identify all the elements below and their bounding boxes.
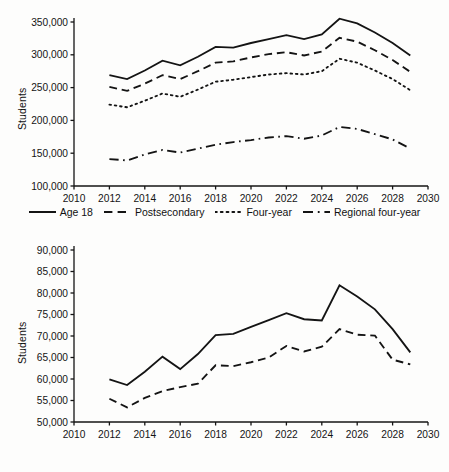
y-tick-label: 85,000 [37, 266, 68, 277]
legend-label: Age 18 [60, 207, 93, 218]
y-tick-label: 60,000 [37, 374, 68, 385]
y-tick-label: 150,000 [31, 148, 68, 159]
legend-line-swatch [303, 207, 330, 217]
x-tick-label: 2016 [169, 429, 192, 440]
y-tick-label: 350,000 [31, 17, 68, 28]
x-tick-label: 2022 [275, 429, 298, 440]
line-chart-bottom: 50,00055,00060,00065,00070,00075,00080,0… [0, 236, 449, 472]
legend-line-swatch [29, 207, 56, 217]
legend-label: Regional four-year [334, 207, 420, 218]
legend-top: Age 18PostsecondaryFour-yearRegional fou… [0, 207, 449, 218]
x-tick-label: 2018 [204, 429, 227, 440]
x-tick-label: 2028 [381, 193, 404, 204]
chart-panel-bottom: Students 50,00055,00060,00065,00070,0007… [0, 236, 449, 472]
x-tick-label: 2030 [417, 193, 440, 204]
legend-line-swatch [215, 207, 242, 217]
y-tick-label: 55,000 [37, 395, 68, 406]
x-tick-label: 2030 [417, 429, 440, 440]
x-tick-label: 2010 [63, 429, 86, 440]
x-tick-label: 2024 [310, 193, 333, 204]
series-line [109, 19, 410, 79]
legend-item[interactable]: Regional four-year [303, 207, 420, 218]
x-tick-label: 2018 [204, 193, 227, 204]
x-tick-label: 2028 [381, 429, 404, 440]
x-tick-label: 2014 [133, 429, 156, 440]
y-tick-label: 70,000 [37, 331, 68, 342]
series-line [109, 127, 410, 160]
x-tick-label: 2010 [63, 193, 86, 204]
x-tick-label: 2020 [240, 429, 263, 440]
y-tick-label: 200,000 [31, 115, 68, 126]
legend-item[interactable]: Four-year [215, 207, 292, 218]
legend-item[interactable]: Postsecondary [104, 207, 204, 218]
y-tick-label: 75,000 [37, 309, 68, 320]
legend-label: Four-year [246, 207, 292, 218]
x-tick-label: 2012 [98, 193, 121, 204]
x-tick-label: 2016 [169, 193, 192, 204]
x-tick-label: 2026 [346, 193, 369, 204]
legend-item[interactable]: Age 18 [29, 207, 93, 218]
x-tick-label: 2012 [98, 429, 121, 440]
x-tick-label: 2022 [275, 193, 298, 204]
legend-label: Postsecondary [135, 207, 204, 218]
line-chart-top: 100,000150,000200,000250,000300,000350,0… [0, 0, 449, 236]
y-axis-label-bottom: Students [16, 322, 28, 364]
x-tick-label: 2014 [133, 193, 156, 204]
y-tick-label: 50,000 [37, 417, 68, 428]
y-tick-label: 90,000 [37, 245, 68, 256]
x-tick-label: 2024 [310, 429, 333, 440]
y-axis-label-top: Students [16, 88, 28, 130]
x-tick-label: 2026 [346, 429, 369, 440]
legend-line-swatch [104, 207, 131, 217]
y-tick-label: 65,000 [37, 352, 68, 363]
chart-panel-top: Students 100,000150,000200,000250,000300… [0, 0, 449, 236]
series-line [109, 329, 410, 407]
y-tick-label: 250,000 [31, 82, 68, 93]
y-tick-label: 300,000 [31, 49, 68, 60]
y-tick-label: 80,000 [37, 288, 68, 299]
figure-sheet: Students 100,000150,000200,000250,000300… [0, 0, 449, 472]
x-tick-label: 2020 [240, 193, 263, 204]
y-tick-label: 100,000 [31, 181, 68, 192]
